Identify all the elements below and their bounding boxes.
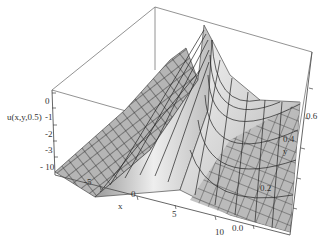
x-axis-label: x: [118, 202, 123, 211]
y-tick-6: 0.6: [306, 112, 317, 121]
y-tick-2: 0.2: [260, 184, 271, 193]
surface-plot: [0, 0, 321, 244]
x-tick-5: 5: [172, 210, 177, 219]
y-tick-04: 0.4: [283, 135, 294, 144]
z-tick-3: -3: [45, 146, 53, 155]
z-axis-label: u(x,y,0.5): [7, 113, 42, 122]
x-tick-0: 0: [131, 190, 136, 199]
x-tick-minus10: - 10: [40, 163, 54, 172]
z-tick-1: -1: [45, 113, 53, 122]
y-tick-0: 0.0: [232, 224, 243, 233]
x-tick-10: 10: [215, 228, 224, 237]
z-tick-0: 0: [45, 97, 50, 106]
x-tick-minus5: -5: [84, 178, 92, 187]
y-axis-label: y: [283, 147, 288, 156]
z-tick-2: -2: [45, 130, 53, 139]
